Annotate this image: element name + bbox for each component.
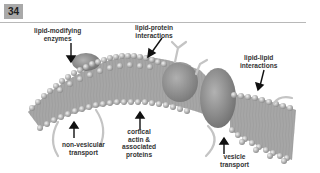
label-lipid-modifying-enzymes: lipid-modifying enzymes <box>34 27 81 42</box>
label-cortical-actin: cortical actin & associated proteins <box>122 128 156 158</box>
label-vesicle-transport: vesicle transport <box>220 153 249 168</box>
transmembrane-protein-large <box>200 68 236 128</box>
label-non-vesicular-transport: non-vesicular transport <box>62 141 105 156</box>
label-lipid-lipid-interactions: lipid-lipid interactions <box>240 54 277 69</box>
label-lipid-protein-interactions: lipid-protein interactions <box>135 24 173 39</box>
lipid-bilayer-right <box>230 94 296 160</box>
transmembrane-protein-center <box>162 62 198 102</box>
